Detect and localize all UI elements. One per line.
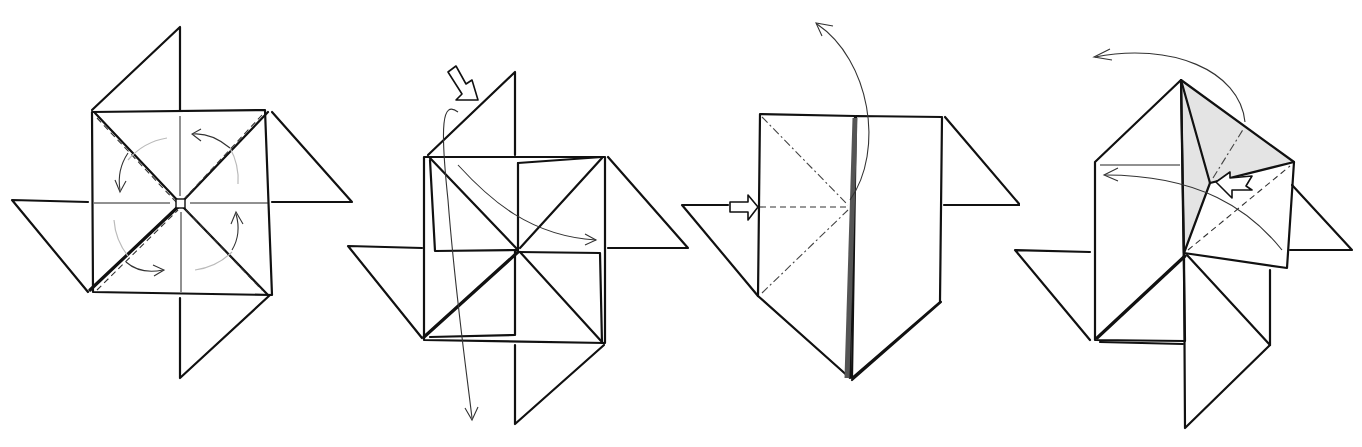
flap-bottom bbox=[180, 295, 270, 378]
right-panel bbox=[852, 116, 942, 378]
step-2-diagram bbox=[340, 0, 700, 447]
flap-left bbox=[12, 200, 88, 292]
left-house bbox=[1095, 80, 1185, 341]
step-3-diagram bbox=[670, 0, 1020, 447]
flap-top bbox=[92, 27, 180, 110]
step-4-diagram bbox=[1000, 0, 1362, 447]
left-panel bbox=[758, 114, 855, 378]
step-1-diagram bbox=[0, 0, 360, 447]
